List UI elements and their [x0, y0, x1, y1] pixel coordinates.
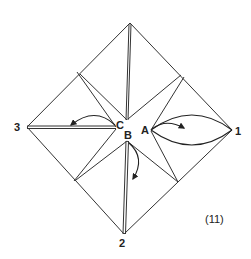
label-corner-2: 2: [119, 237, 125, 249]
step-number-caption: (11): [205, 213, 224, 225]
label-point-b: B: [124, 129, 132, 141]
origami-diagram: 3 1 2 C A B (11): [0, 0, 251, 259]
label-corner-3: 3: [14, 121, 20, 133]
fold-diagram-svg: 3 1 2 C A B (11): [0, 0, 251, 259]
arrow-b-icon: [129, 143, 139, 179]
label-point-c: C: [116, 119, 124, 131]
bottom-center-crease: [123, 141, 129, 234]
label-corner-1: 1: [235, 125, 241, 137]
top-center-crease: [126, 24, 131, 120]
arrow-a-icon: [152, 123, 184, 129]
left-flap-crease: [27, 126, 116, 129]
right-flap-lens: [151, 115, 232, 145]
label-point-a: A: [141, 124, 149, 136]
